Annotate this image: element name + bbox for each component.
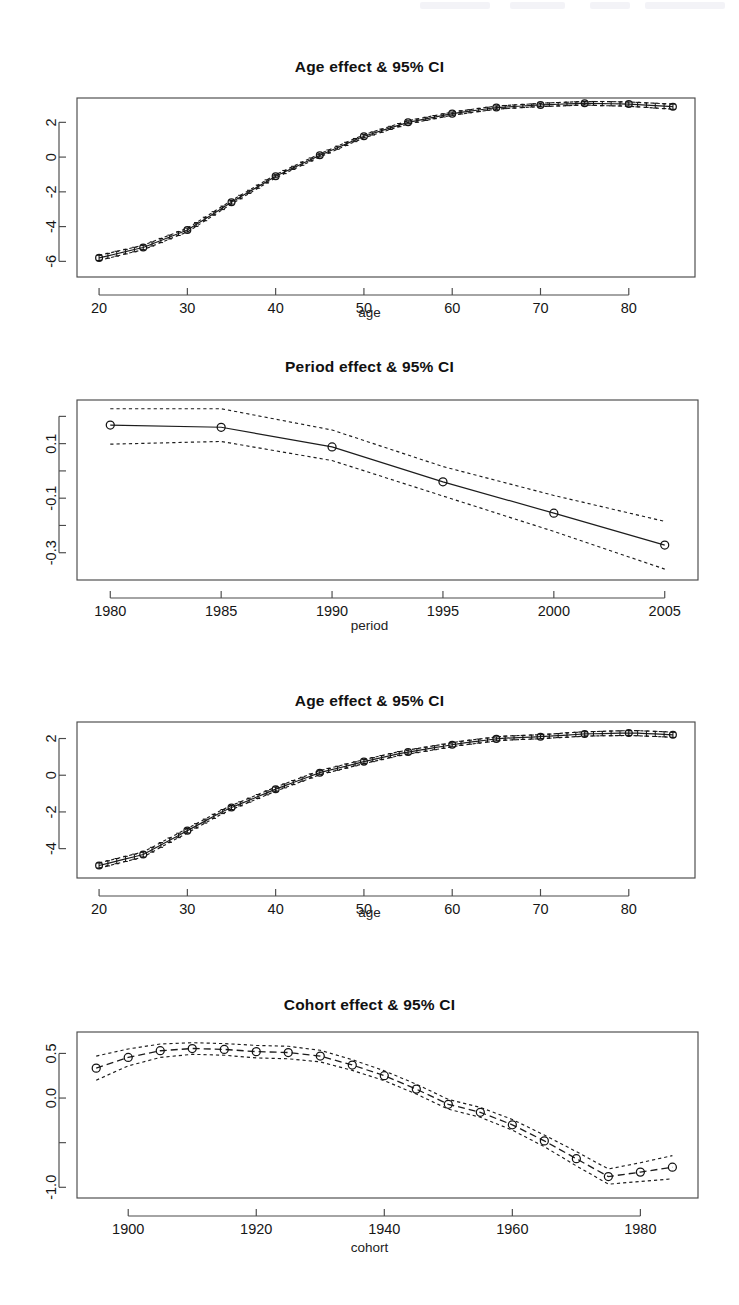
y-tick-label: 0: [43, 771, 59, 779]
data-point: [661, 541, 669, 549]
y-tick-label: -2: [43, 185, 59, 198]
y-tick-label: -0.1: [43, 486, 59, 511]
y-tick-label: -2: [43, 805, 59, 818]
data-point: [380, 1072, 388, 1080]
y-tick-label: 0.0: [43, 1088, 59, 1108]
y-tick-label: -1.0: [43, 1175, 59, 1200]
chart-age-effect-top: 2030405060708020-2-4-6: [0, 0, 739, 340]
y-tick-label: -0.3: [43, 540, 59, 565]
figure-page: Age effect & 95% CI 2030405060708020-2-4…: [0, 0, 739, 1305]
x-tick-label: 1985: [205, 603, 237, 619]
x-tick-label: 1990: [316, 603, 348, 619]
y-tick-label: 0.5: [43, 1043, 59, 1063]
x-tick-label: 1960: [496, 1221, 528, 1237]
data-point: [412, 1085, 420, 1093]
chart-age-effect-bottom: 2030405060708020-2-4: [0, 640, 739, 940]
panel-period-effect: Period effect & 95% CI 19801985199019952…: [0, 340, 739, 640]
x-tick-label: 1940: [368, 1221, 400, 1237]
y-tick-label: 0: [43, 153, 59, 161]
x-axis-label: age: [0, 305, 739, 320]
x-tick-label: 2005: [649, 603, 681, 619]
panel-cohort-effect: Cohort effect & 95% CI 19001920194019601…: [0, 940, 739, 1305]
y-tick-label: -6: [43, 255, 59, 268]
x-tick-label: 1980: [94, 603, 126, 619]
data-point: [348, 1061, 356, 1069]
data-point: [92, 1064, 100, 1072]
x-axis-label: period: [0, 618, 739, 633]
data-point: [668, 1163, 676, 1171]
y-tick-label: -4: [43, 220, 59, 233]
panel-age-effect-top: Age effect & 95% CI 2030405060708020-2-4…: [0, 0, 739, 340]
data-point: [572, 1155, 580, 1163]
x-tick-label: 1995: [427, 603, 459, 619]
y-tick-label: 2: [43, 118, 59, 126]
x-axis-label: cohort: [0, 1240, 739, 1255]
y-tick-label: 2: [43, 734, 59, 742]
x-tick-label: 1920: [240, 1221, 272, 1237]
y-tick-label: 0.1: [43, 434, 59, 454]
x-tick-label: 1980: [624, 1221, 656, 1237]
chart-period-effect: 1980198519901995200020050.1-0.1-0.3: [0, 340, 739, 640]
y-tick-label: -4: [43, 842, 59, 855]
x-tick-label: 1900: [112, 1221, 144, 1237]
x-tick-label: 2000: [538, 603, 570, 619]
panel-age-effect-bottom: Age effect & 95% CI 2030405060708020-2-4…: [0, 640, 739, 940]
x-axis-label: age: [0, 905, 739, 920]
